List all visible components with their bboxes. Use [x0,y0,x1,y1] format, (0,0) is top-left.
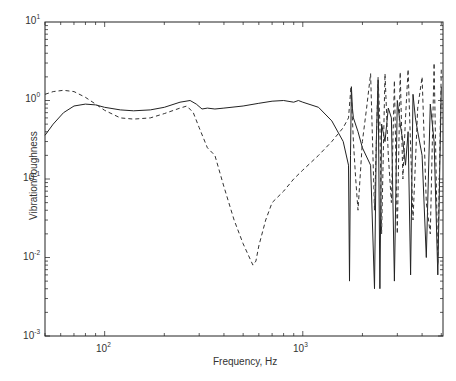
series-solid-line [45,81,441,289]
y-axis-label: Vibration/roughness [28,121,39,231]
y-tick-label: 10-2 [10,250,40,262]
chart-plot-area [0,0,456,381]
axis-ticks [45,22,443,336]
x-axis-label: Frequency, Hz [213,356,277,367]
y-tick-label: 10-3 [10,329,40,341]
y-tick-label: 101 [10,14,40,26]
x-tick-label: 102 [96,342,111,354]
x-tick-label: 103 [293,342,308,354]
y-tick-label: 100 [10,92,40,104]
axes-frame [45,22,443,336]
series-dashed-line [45,63,441,265]
